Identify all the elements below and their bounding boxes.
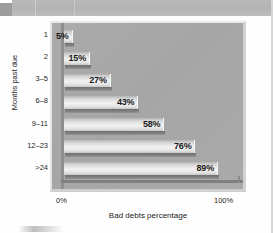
page-right-edge-artifact	[271, 0, 273, 233]
x-axis-tick-min: 0%	[56, 196, 67, 205]
bar-wrapper: 15%	[64, 52, 90, 65]
bar-value-label: 76%	[174, 141, 191, 152]
x-axis-line	[61, 180, 243, 183]
bar-value-label: 89%	[197, 163, 214, 174]
page-top-band-artifact	[12, 0, 273, 16]
x-axis-tick-max: 100%	[214, 196, 233, 205]
bar-wrapper: 76%	[64, 140, 195, 153]
page-band-seam-right	[74, 0, 75, 16]
bar-row: 27%	[64, 69, 237, 91]
bar-wrapper: 89%	[64, 162, 218, 175]
bar-row: 58%	[64, 114, 237, 136]
bar-value-label: 5%	[56, 31, 69, 42]
bar-row: 76%	[64, 136, 237, 158]
y-axis-title: Months past due	[10, 45, 19, 121]
bar-value-label: 58%	[143, 119, 160, 130]
bar	[64, 162, 218, 175]
bar-shadow	[65, 131, 165, 135]
chart-figure: 5%15%27%43%58%76%89%	[50, 21, 246, 192]
y-axis-category-label: 12–23	[14, 134, 48, 156]
bar-wrapper: 58%	[64, 118, 164, 131]
y-axis-category-label: 6–8	[14, 90, 48, 112]
x-axis-right-tick	[238, 176, 240, 183]
bar-shadow	[65, 65, 91, 69]
page-band-seam-left	[35, 0, 36, 16]
bar-value-label: 43%	[117, 97, 134, 108]
bar-value-label: 15%	[69, 53, 86, 64]
bar-shadow	[65, 175, 219, 179]
plot-area: 5%15%27%43%58%76%89%	[52, 23, 243, 189]
x-axis-title: Bad debts percentage	[50, 211, 246, 220]
bar-wrapper: 43%	[64, 96, 138, 109]
bar-shadow	[65, 43, 74, 47]
bar-value-label: 27%	[89, 75, 106, 86]
bar-row: 43%	[64, 91, 237, 113]
y-axis-category-label: 1	[14, 23, 48, 45]
bar-shadow	[65, 109, 139, 113]
y-axis-category-label: 2	[14, 45, 48, 67]
bar-row: 5%	[64, 25, 237, 47]
bar-row: 89%	[64, 158, 237, 180]
bar-wrapper: 5%	[64, 30, 73, 43]
bar-shadow	[65, 153, 196, 157]
y-axis-category-labels: 123–56–89–1112–23>24	[14, 23, 48, 179]
page-bottom-smudge-artifact	[18, 226, 64, 232]
y-axis-category-label: 9–11	[14, 112, 48, 134]
bar-row: 15%	[64, 47, 237, 69]
bar-series: 5%15%27%43%58%76%89%	[64, 25, 237, 180]
bar-shadow	[65, 87, 112, 91]
bar-wrapper: 27%	[64, 74, 111, 87]
y-axis-category-label: >24	[14, 157, 48, 179]
y-axis-category-label: 3–5	[14, 68, 48, 90]
page-left-corner-artifact	[0, 3, 12, 16]
